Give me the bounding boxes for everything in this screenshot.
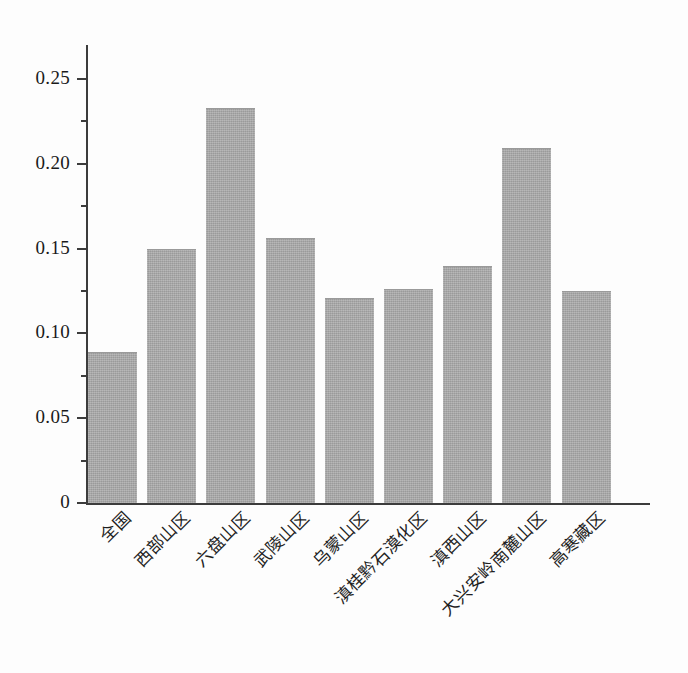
bar <box>266 238 315 503</box>
x-tick-label-text: 滇西山区 <box>428 508 491 571</box>
y-tick-label: 0.20 <box>10 152 70 174</box>
y-tick-major <box>77 248 88 250</box>
bar <box>88 352 137 503</box>
x-tick-label: 西部山区 <box>133 509 196 572</box>
bar <box>325 298 374 503</box>
y-tick-major <box>77 78 88 80</box>
y-tick-minor <box>81 290 88 292</box>
bar <box>443 266 492 503</box>
x-tick-label: 高寒藏区 <box>547 509 610 572</box>
y-tick-major <box>77 417 88 419</box>
x-tick-label-text: 滇桂黔石漠化区 <box>331 508 431 608</box>
x-tick-label: 武陵山区 <box>251 509 314 572</box>
y-tick-minor <box>81 375 88 377</box>
x-tick-label-text: 大兴安岭南麓山区 <box>437 508 549 620</box>
x-tick-label-text: 高寒藏区 <box>546 508 609 571</box>
bar <box>206 108 255 503</box>
y-tick-major <box>77 502 88 504</box>
y-tick-label: 0.25 <box>10 67 70 89</box>
x-tick-label-text: 乌蒙山区 <box>309 508 372 571</box>
x-tick-label-text: 六盘山区 <box>191 508 254 571</box>
y-tick-label: 0.10 <box>10 321 70 343</box>
x-tick-label: 六盘山区 <box>192 509 255 572</box>
bar <box>147 249 196 503</box>
x-tick-label: 全国 <box>99 509 137 547</box>
bar-chart-figure: 00.050.100.150.200.25 全国西部山区六盘山区武陵山区乌蒙山区… <box>0 0 688 673</box>
bar <box>502 148 551 503</box>
y-tick-minor <box>81 460 88 462</box>
y-tick-label: 0 <box>10 491 70 513</box>
x-tick-label-text: 西部山区 <box>132 508 195 571</box>
x-tick-label-text: 武陵山区 <box>250 508 313 571</box>
y-tick-minor <box>81 205 88 207</box>
y-tick-minor <box>81 120 88 122</box>
x-axis-line <box>86 503 650 505</box>
x-tick-label: 滇桂黔石漠化区 <box>333 509 433 609</box>
x-tick-label: 大兴安岭南麓山区 <box>439 509 551 621</box>
plot-area <box>88 45 650 503</box>
x-tick-label: 乌蒙山区 <box>311 509 374 572</box>
x-tick-label: 滇西山区 <box>429 509 492 572</box>
y-tick-label: 0.05 <box>10 406 70 428</box>
bar <box>384 289 433 503</box>
bar <box>562 291 611 503</box>
x-tick-label-text: 全国 <box>97 508 135 546</box>
y-tick-label: 0.15 <box>10 237 70 259</box>
y-tick-major <box>77 332 88 334</box>
y-tick-major <box>77 163 88 165</box>
